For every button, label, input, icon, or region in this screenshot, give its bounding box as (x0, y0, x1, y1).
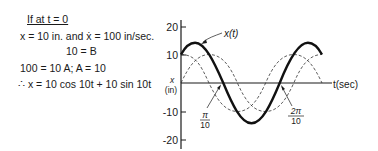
curve-label: x(t) (223, 28, 238, 39)
tick-label-10: 10 (166, 49, 178, 61)
vibration-plot: 20 10 -10 -20 x (in) t(sec) x(t) π 10 2π… (0, 0, 378, 151)
x-axis-label: t(sec) (333, 79, 358, 90)
y-axis-unit: (in) (165, 85, 177, 95)
two-pi-over-10-numerator: 2π (290, 106, 302, 116)
tick-label-20: 20 (166, 21, 178, 33)
y-axis-label: x (169, 75, 175, 85)
two-pi-over-10-denominator: 10 (291, 116, 301, 126)
arrow-icon (281, 85, 285, 91)
tick-label-minus-20: -20 (163, 134, 178, 146)
arrow-icon (201, 40, 207, 45)
pi-over-10-denominator: 10 (200, 120, 210, 130)
arrow-icon (217, 85, 221, 91)
pi-over-10-numerator: π (202, 110, 208, 120)
tick-label-minus-10: -10 (163, 106, 178, 118)
pi-over-10-leader (207, 86, 220, 108)
